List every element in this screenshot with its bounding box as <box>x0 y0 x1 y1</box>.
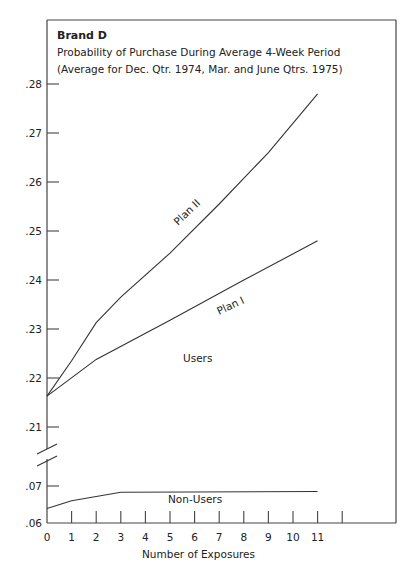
x-tick-label: 6 <box>191 531 198 543</box>
x-tick-label: 8 <box>240 531 247 543</box>
chart: Brand D Probability of Purchase During A… <box>0 0 419 587</box>
chart-title: Brand D <box>57 29 107 42</box>
y-tick-label: .27 <box>25 127 42 139</box>
y-tick-label: .07 <box>25 480 42 492</box>
x-tick-label: 3 <box>117 531 124 543</box>
plan-i-label: Plan I <box>215 294 246 317</box>
x-axis: 01234567891011 <box>44 511 343 543</box>
x-tick-label: 5 <box>167 531 174 543</box>
y-tick-label: .06 <box>25 517 42 529</box>
chart-subtitle-line2: (Average for Dec. Qtr. 1974, Mar. and Ju… <box>57 63 343 75</box>
x-tick-label: 11 <box>311 531 324 543</box>
series-plan-i-line <box>47 241 318 396</box>
non-users-label: Non-Users <box>168 493 222 505</box>
series-plan-ii-line <box>47 94 318 396</box>
x-tick-label: 9 <box>265 531 272 543</box>
x-axis-title: Number of Exposures <box>142 548 255 560</box>
x-tick-label: 1 <box>68 531 75 543</box>
x-tick-label: 7 <box>216 531 223 543</box>
y-tick-label: .22 <box>25 372 42 384</box>
y-tick-label: .26 <box>25 176 42 188</box>
users-label: Users <box>183 352 212 364</box>
y-axis: .21.22.23.24.25.26.27.28.06.07 <box>25 78 59 529</box>
series-layer <box>47 94 318 509</box>
y-tick-label: .28 <box>25 78 42 90</box>
x-tick-label: 0 <box>44 531 51 543</box>
y-tick-label: .24 <box>25 274 42 286</box>
y-tick-label: .25 <box>25 225 42 237</box>
plan-ii-label: Plan II <box>171 197 202 228</box>
plot-frame <box>47 20 396 523</box>
x-tick-label: 10 <box>286 531 299 543</box>
y-tick-label: .23 <box>25 323 42 335</box>
x-tick-label: 2 <box>93 531 100 543</box>
chart-subtitle-line1: Probability of Purchase During Average 4… <box>57 46 340 58</box>
y-tick-label: .21 <box>25 421 42 433</box>
x-tick-label: 4 <box>142 531 149 543</box>
